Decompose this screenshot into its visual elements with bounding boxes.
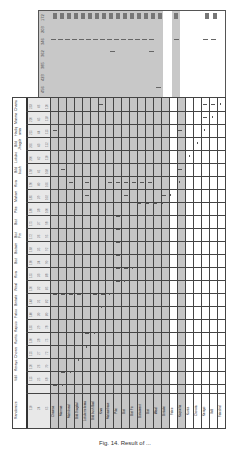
column-label: Bild Jhagdal bbox=[75, 396, 82, 426]
top-cell-mark bbox=[149, 39, 154, 40]
cell-mark bbox=[124, 268, 128, 269]
cell-tick bbox=[162, 202, 163, 204]
top-row-label: 346 bbox=[40, 37, 50, 47]
cell-mark bbox=[53, 385, 57, 386]
grid-line bbox=[217, 98, 218, 428]
cell-value: 45 bbox=[37, 114, 43, 124]
column-label: Kapsiolia bbox=[178, 396, 185, 426]
cell-value: 26 bbox=[37, 361, 43, 371]
grid-line bbox=[105, 98, 106, 428]
grid-line bbox=[50, 98, 51, 428]
cell-mark bbox=[69, 294, 73, 295]
cell-mark bbox=[203, 117, 207, 118]
cell-tick bbox=[197, 142, 198, 144]
cell-mark bbox=[178, 169, 182, 170]
cell-tick bbox=[94, 332, 95, 334]
row-header-column: Chamsa Manmae Hadiq ama Bild Jhagdal Lok… bbox=[13, 98, 28, 428]
row-label: Bistaiment bbox=[14, 243, 25, 254]
cell-mark bbox=[124, 195, 128, 196]
cell-mark bbox=[132, 182, 136, 183]
row-label: Mahambase bbox=[14, 191, 25, 202]
cell-value: 32 bbox=[37, 283, 43, 293]
cell-mark bbox=[116, 216, 120, 217]
grid-line bbox=[113, 98, 114, 428]
top-row-labels: 172 203 346 362 385 423 456 bbox=[39, 11, 51, 99]
cell-value: 160 bbox=[29, 257, 35, 267]
cell-tick bbox=[137, 241, 138, 243]
cell-tick bbox=[124, 280, 125, 282]
cell-value: 148 bbox=[29, 296, 35, 306]
column-label: Bist bbox=[122, 396, 129, 426]
grid-line bbox=[161, 98, 162, 428]
cell-mark bbox=[69, 182, 73, 183]
figure-caption: Fig. 14. Result of ... bbox=[60, 440, 190, 450]
cell-mark bbox=[108, 182, 112, 183]
cell-value: 34 bbox=[37, 257, 43, 267]
row-label: Bild bush bbox=[14, 165, 25, 176]
top-cell-mark bbox=[79, 39, 84, 40]
cell-mark bbox=[116, 268, 120, 269]
grid-line bbox=[26, 202, 225, 203]
row-label: Bist Fin bbox=[14, 230, 25, 241]
row-label: Randomize bbox=[14, 396, 25, 424]
column-label: Kiva bbox=[99, 396, 106, 426]
cell-mark bbox=[53, 130, 57, 131]
grid-line bbox=[129, 98, 130, 428]
grid-line bbox=[177, 98, 178, 428]
cell-value: 215 bbox=[29, 127, 35, 137]
cell-value: 40 bbox=[37, 179, 43, 189]
cell-tick bbox=[109, 293, 110, 295]
grid-line bbox=[98, 98, 99, 428]
row-label: Kapsiolia bbox=[14, 321, 25, 332]
row-label: Bild Jhagdal bbox=[14, 139, 25, 150]
cell-value: 155 bbox=[29, 270, 35, 280]
grid-line bbox=[26, 280, 225, 281]
column-label: Lotukorrokoma bbox=[83, 396, 90, 426]
top-cell-mark bbox=[142, 39, 147, 40]
grid-line bbox=[26, 393, 225, 394]
row-label: Kerayo bbox=[14, 360, 25, 371]
top-cell-mark bbox=[156, 87, 161, 88]
cell-value: 185 bbox=[29, 192, 35, 202]
grid-line bbox=[209, 98, 210, 428]
top-row-label: 385 bbox=[40, 61, 50, 71]
top-cell-mark bbox=[72, 39, 77, 40]
row-label: Lokukorkora bbox=[14, 152, 25, 163]
cell-value: 233 bbox=[29, 101, 35, 111]
top-row-label: 203 bbox=[40, 25, 50, 35]
row-label: Fatoo bbox=[14, 308, 25, 319]
top-cell-mark bbox=[135, 39, 140, 40]
top-cell-mark bbox=[128, 39, 133, 40]
grid-line bbox=[169, 98, 170, 428]
cell-mark bbox=[116, 242, 120, 243]
row-label: Kiva bbox=[14, 178, 25, 189]
cell-tick bbox=[129, 254, 130, 256]
cell-mark bbox=[137, 203, 141, 204]
cell-tick bbox=[78, 359, 79, 361]
top-cell-mark bbox=[174, 39, 179, 40]
cell-tick bbox=[70, 371, 71, 373]
grid-line bbox=[26, 176, 225, 177]
grid-line bbox=[193, 98, 194, 428]
main-table: Chamsa Manmae Hadiq ama Bild Jhagdal Lok… bbox=[12, 97, 226, 429]
cell-value: 38 bbox=[37, 205, 43, 215]
row-label: Kiva bbox=[14, 269, 25, 280]
top-cell-mark bbox=[58, 39, 63, 40]
cell-value: 168 bbox=[29, 244, 35, 254]
top-head-mark bbox=[151, 13, 155, 19]
cell-value: 31 bbox=[37, 296, 43, 306]
top-shaded-region bbox=[39, 11, 163, 99]
top-cell-mark bbox=[51, 39, 56, 40]
column-label: Pike bbox=[114, 396, 121, 426]
cell-tick bbox=[170, 194, 171, 196]
cell-value: 140 bbox=[29, 309, 35, 319]
column-label: Bist Fin bbox=[130, 396, 137, 426]
top-head-mark bbox=[137, 13, 141, 19]
column-label: Weal bbox=[154, 396, 161, 426]
cell-mark bbox=[116, 255, 120, 256]
grid-line bbox=[201, 98, 202, 428]
column-label: Chowra bbox=[194, 396, 201, 426]
top-head-mark bbox=[53, 13, 57, 19]
grid-line bbox=[58, 98, 59, 428]
cell-value: 135 bbox=[29, 322, 35, 332]
